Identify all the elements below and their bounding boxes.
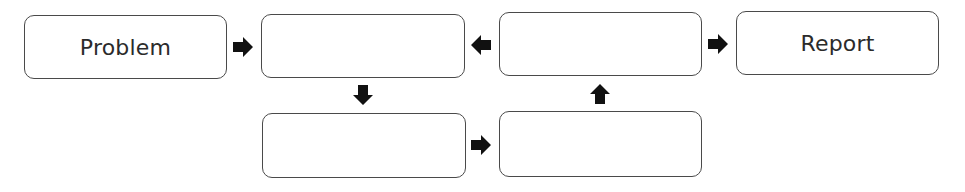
box-step-4 bbox=[499, 12, 702, 76]
box-step-1 bbox=[261, 14, 465, 78]
arrow-right-icon bbox=[707, 33, 729, 55]
box-step-3 bbox=[499, 111, 702, 177]
arrow-left-icon bbox=[470, 34, 492, 56]
box-step-2 bbox=[262, 113, 466, 178]
box-problem: Problem bbox=[24, 15, 227, 79]
arrow-right-icon bbox=[232, 36, 254, 58]
arrow-up-icon bbox=[589, 83, 611, 105]
arrow-right-icon bbox=[470, 134, 492, 156]
box-report: Report bbox=[736, 11, 939, 75]
arrow-down-icon bbox=[352, 84, 374, 106]
box-report-label: Report bbox=[800, 31, 874, 56]
box-problem-label: Problem bbox=[80, 35, 171, 60]
